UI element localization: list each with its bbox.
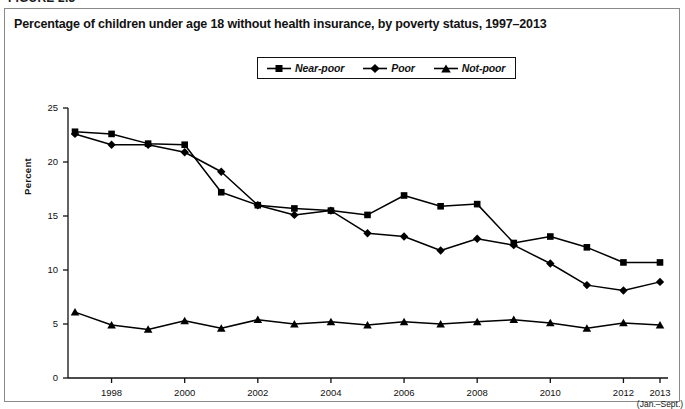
chart-legend: Near-poor Poor Not-poor: [257, 57, 516, 79]
figure-number-strip: FIGURE 2.3: [0, 0, 685, 7]
legend-item-near-poor: Near-poor: [266, 62, 344, 74]
legend-label-not-poor: Not-poor: [462, 62, 506, 74]
legend-marker-triangle-icon: [433, 63, 459, 74]
y-axis-tick-label: 10: [32, 264, 58, 275]
x-axis-tick-label: 2010: [520, 387, 580, 398]
legend-label-near-poor: Near-poor: [295, 62, 344, 74]
x-axis-tick-label: 2002: [228, 387, 288, 398]
x-axis-tick-label: 2008: [447, 387, 507, 398]
chart-title: Percentage of children under age 18 with…: [14, 17, 547, 31]
x-axis-tick-label: 1998: [82, 387, 142, 398]
legend-label-poor: Poor: [391, 62, 415, 74]
figure-number: FIGURE 2.3: [8, 0, 75, 5]
x-axis-tick-label: 2004: [301, 387, 361, 398]
x-axis-tick-label: 2000: [155, 387, 215, 398]
legend-marker-square-icon: [266, 63, 292, 74]
legend-item-poor: Poor: [362, 62, 415, 74]
x-axis-tick-label: 2013: [630, 387, 685, 398]
y-axis-tick-label: 15: [32, 210, 58, 221]
y-axis-tick-label: 20: [32, 156, 58, 167]
legend-item-not-poor: Not-poor: [433, 62, 506, 74]
y-axis-tick-label: 0: [32, 372, 58, 383]
x-axis-tick-sublabel: (Jan.–Sept.): [625, 399, 685, 409]
y-axis-tick-label: 5: [32, 318, 58, 329]
x-axis-tick-label: 2006: [374, 387, 434, 398]
legend-marker-diamond-icon: [362, 63, 388, 74]
y-axis-tick-label: 25: [32, 102, 58, 113]
